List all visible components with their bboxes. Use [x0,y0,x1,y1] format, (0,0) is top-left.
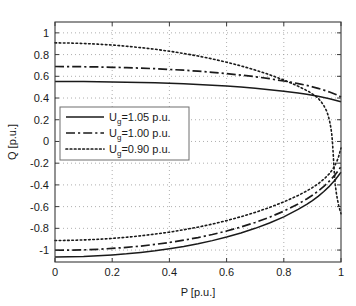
x-tick-label: 1 [338,266,344,278]
legend-label-rest: =1.00 p.u. [121,127,170,139]
y-tick-label: -0.8 [30,222,49,234]
x-axis-title: P [p.u.] [181,286,216,298]
y-tick-label: 0 [43,135,49,147]
x-tick-label: 0.4 [162,266,177,278]
chart-figure: 00.20.40.60.81 10.80.60.40.20-0.2-0.4-0.… [0,0,356,306]
x-tick-label: 0.8 [276,266,291,278]
y-tick-label: -0.2 [30,157,49,169]
y-tick-label: 1 [43,27,49,39]
legend-label-base: U [109,143,117,155]
pq-capability-chart: 00.20.40.60.81 10.80.60.40.20-0.2-0.4-0.… [0,0,356,306]
y-tick-label: -0.6 [30,201,49,213]
legend-label-rest: =1.05 p.u. [121,111,170,123]
y-tick-label: 0.4 [34,92,49,104]
y-tick-label: 0.8 [34,49,49,61]
y-tick-label: 0.2 [34,114,49,126]
y-tick-label: 0.6 [34,70,49,82]
x-tick-label: 0 [52,266,58,278]
legend-label-base: U [109,111,117,123]
y-axis-title: Q [p.u.] [6,124,18,160]
x-tick-label: 0.2 [105,266,120,278]
y-tick-label: -0.4 [30,179,49,191]
legend-label-base: U [109,127,117,139]
legend-label-rest: =0.90 p.u. [121,143,170,155]
y-tick-label: -1 [39,244,49,256]
x-tick-label: 0.6 [219,266,234,278]
legend[interactable]: Ug=1.05 p.u.Ug=1.00 p.u.Ug=0.90 p.u. [60,107,189,160]
